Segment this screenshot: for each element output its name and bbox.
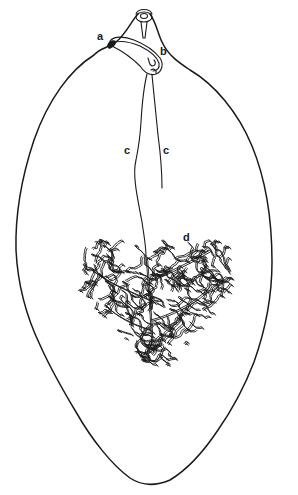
label-b: b	[160, 45, 167, 57]
label-a: a	[97, 30, 104, 42]
label-c-left: c	[124, 144, 130, 156]
branched-gland-d	[79, 239, 235, 366]
specimen-figure: a b c c d	[0, 0, 298, 495]
label-c-right: c	[163, 144, 169, 156]
organ-ab-pouch	[107, 37, 162, 74]
ducts-c	[135, 74, 162, 256]
body-outline	[16, 14, 272, 484]
oral-sucker	[136, 10, 152, 39]
label-d: d	[183, 231, 190, 243]
